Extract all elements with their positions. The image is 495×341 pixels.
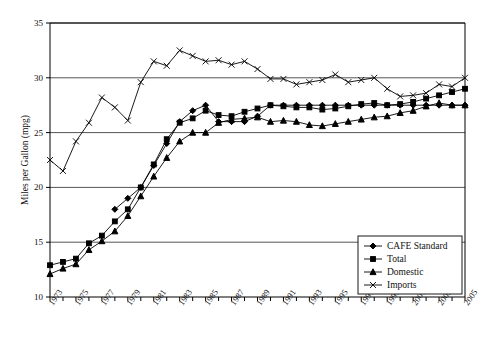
datapoint-1-2001 (411, 100, 416, 105)
datapoint-1-1993 (307, 105, 312, 110)
datapoint-1-1995 (333, 106, 338, 111)
datapoint-3-1989 (255, 66, 261, 72)
line-chart: 1015202530351973197519771979198119831985… (0, 0, 495, 341)
datapoint-1-1999 (385, 103, 390, 108)
datapoint-1-1996 (346, 104, 351, 109)
datapoint-3-1979 (125, 118, 131, 124)
datapoint-1-1980 (138, 185, 143, 190)
legend-label-3: Imports (387, 280, 417, 290)
datapoint-3-1981 (151, 58, 157, 64)
datapoint-1-1991 (281, 104, 286, 109)
legend-label-1: Total (387, 254, 407, 264)
chart-container: 1015202530351973197519771979198119831985… (0, 0, 495, 341)
legend-marker-square (371, 257, 376, 262)
datapoint-2-1973 (47, 271, 53, 277)
datapoint-3-1977 (99, 95, 105, 101)
datapoint-2-1991 (280, 117, 286, 123)
datapoint-1-1981 (151, 162, 156, 167)
datapoint-1-2000 (398, 102, 403, 107)
datapoint-3-1988 (242, 58, 248, 64)
legend: CAFE StandardTotalDomesticImports (358, 236, 462, 294)
datapoint-3-1976 (86, 120, 92, 126)
datapoint-1-1994 (320, 107, 325, 112)
datapoint-1-1979 (125, 207, 130, 212)
datapoint-2-2003 (436, 100, 442, 106)
xtick-label-2005: 2005 (461, 287, 479, 307)
datapoint-1-1986 (216, 113, 221, 118)
datapoint-1-1990 (268, 103, 273, 108)
ytick-label-10: 10 (34, 292, 44, 302)
datapoint-1-2004 (450, 90, 455, 95)
datapoint-1-1985 (203, 108, 208, 113)
datapoint-1-1992 (294, 105, 299, 110)
datapoint-3-1999 (384, 86, 390, 92)
datapoint-1-1982 (164, 137, 169, 142)
datapoint-1-1997 (359, 102, 364, 107)
ytick-label-20: 20 (34, 182, 44, 192)
datapoint-3-1980 (138, 79, 144, 85)
datapoint-3-1974 (60, 168, 66, 174)
datapoint-2-1976 (86, 247, 92, 253)
datapoint-1-2005 (463, 86, 468, 91)
datapoint-3-1987 (229, 62, 235, 68)
datapoint-2-1980 (138, 193, 144, 199)
datapoint-3-1995 (332, 72, 338, 78)
datapoint-2-1977 (99, 238, 105, 244)
datapoint-1-1983 (177, 120, 182, 125)
y-axis-title: Miles per Gallon (mpg) (20, 115, 31, 205)
ytick-label-35: 35 (34, 18, 44, 28)
datapoint-1-2003 (437, 93, 442, 98)
datapoint-1-1978 (112, 219, 117, 224)
datapoint-1-2002 (424, 96, 429, 101)
datapoint-2-1979 (125, 213, 131, 219)
datapoint-3-1984 (190, 53, 196, 59)
datapoint-3-1983 (177, 47, 183, 53)
datapoint-1-1998 (372, 101, 377, 106)
datapoint-3-1975 (73, 138, 79, 144)
datapoint-2-1983 (177, 138, 183, 144)
legend-label-0: CAFE Standard (387, 241, 448, 251)
legend-label-2: Domestic (387, 267, 423, 277)
datapoint-1-1973 (48, 263, 53, 268)
datapoint-1-1974 (61, 260, 66, 265)
ytick-label-15: 15 (34, 237, 44, 247)
datapoint-1-1988 (242, 109, 247, 114)
datapoint-3-1978 (112, 104, 118, 110)
datapoint-3-1982 (164, 63, 170, 69)
datapoint-1-1984 (190, 116, 195, 121)
ytick-label-30: 30 (34, 73, 44, 83)
datapoint-1-1989 (255, 106, 260, 111)
datapoint-1-1976 (87, 241, 92, 246)
ytick-label-25: 25 (34, 128, 44, 138)
